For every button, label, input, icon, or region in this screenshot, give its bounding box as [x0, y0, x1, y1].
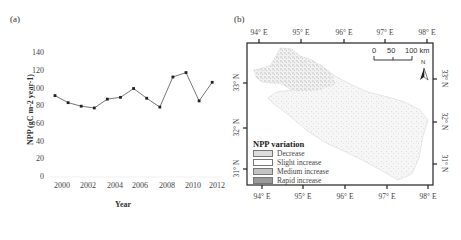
map-legend: NPP variation DecreaseSlight increaseMed…	[253, 139, 329, 185]
legend-item: Medium increase	[253, 167, 329, 176]
map-coordinate-label: 32° N	[232, 114, 241, 142]
legend-label: Decrease	[277, 149, 304, 158]
map-coordinate-label: 96° E	[332, 28, 356, 37]
north-arrow-icon	[420, 68, 428, 80]
legend-title: NPP variation	[253, 139, 329, 149]
map-coordinate-label: 33° N	[232, 69, 241, 97]
scale-label-50: 50	[387, 46, 395, 55]
scale-label-100km: 100 km	[405, 46, 430, 55]
study-region-north-dense	[254, 48, 336, 92]
legend-swatch	[253, 159, 273, 166]
north-label: N	[421, 59, 425, 65]
legend-swatch	[253, 177, 273, 184]
scale-label-0: 0	[372, 46, 376, 55]
legend-swatch	[253, 150, 273, 157]
legend-item: Slight increase	[253, 158, 329, 167]
map-coordinate-label: 95° E	[291, 192, 315, 201]
map-coordinate-label: 97° E	[373, 28, 397, 37]
map-coordinate-label: 98° E	[415, 28, 439, 37]
map-coordinate-label: 33° N	[440, 65, 449, 93]
legend-item: Decrease	[253, 149, 329, 158]
map-coordinate-label: 31° N	[440, 150, 449, 178]
legend-item: Rapid increase	[253, 176, 329, 185]
map-coordinate-label: 96° E	[333, 192, 357, 201]
legend-items: DecreaseSlight increaseMedium increaseRa…	[253, 149, 329, 185]
map-coordinate-label: 94° E	[250, 192, 274, 201]
scale-bar	[374, 56, 412, 60]
legend-swatch	[253, 168, 273, 175]
map-coordinate-label: 32° N	[440, 108, 449, 136]
legend-label: Slight increase	[277, 158, 321, 167]
map-coordinate-label: 31° N	[232, 155, 241, 183]
legend-label: Rapid increase	[277, 176, 321, 185]
map-coordinate-label: 98° E	[416, 192, 440, 201]
map-coordinate-label: 94° E	[247, 28, 271, 37]
map-coordinate-label: 95° E	[289, 28, 313, 37]
map-coordinate-label: 97° E	[375, 192, 399, 201]
legend-label: Medium increase	[277, 167, 329, 176]
